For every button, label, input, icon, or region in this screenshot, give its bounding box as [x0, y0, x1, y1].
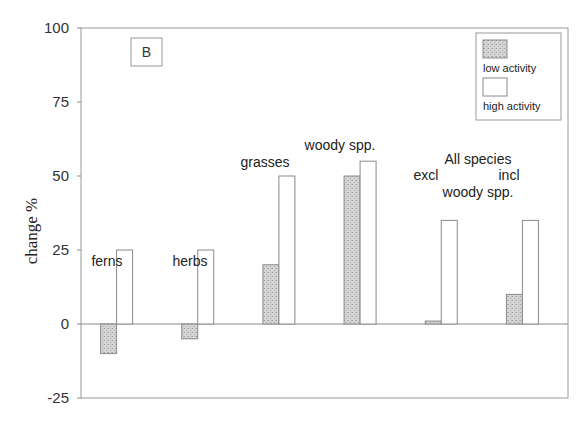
bar-low-activity-3 [344, 176, 360, 324]
bar-chart: -250255075100change % Bfernsherbsgrasses… [0, 0, 588, 429]
category-label: ferns [91, 253, 122, 269]
legend-label: low activity [483, 62, 537, 74]
y-tick-label: 75 [52, 93, 69, 110]
legend: low activityhigh activity [476, 33, 561, 120]
category-label: woody spp. [304, 137, 376, 153]
group-annotation: All species [445, 151, 512, 167]
legend-label: high activity [483, 100, 541, 112]
category-label: herbs [172, 253, 207, 269]
bar-low-activity-1 [182, 324, 198, 339]
bar-high-activity-5 [522, 220, 538, 324]
bar-high-activity-3 [360, 161, 376, 324]
y-axis-label: change % [22, 198, 41, 265]
y-tick-label: -25 [47, 389, 69, 406]
bar-low-activity-4 [425, 321, 441, 324]
y-tick-label: 0 [61, 315, 69, 332]
category-label: incl [498, 167, 519, 183]
y-tick-label: 50 [52, 167, 69, 184]
bar-low-activity-5 [506, 294, 522, 324]
panel-label: B [142, 44, 151, 60]
group-annotation: woody spp. [442, 184, 514, 200]
category-label: excl [414, 167, 439, 183]
legend-swatch-high-activity [483, 78, 507, 96]
bar-high-activity-2 [279, 176, 295, 324]
bar-high-activity-4 [441, 220, 457, 324]
bar-low-activity-0 [101, 324, 117, 354]
bar-low-activity-2 [263, 265, 279, 324]
y-tick-label: 25 [52, 241, 69, 258]
category-label: grasses [240, 154, 289, 170]
legend-swatch-low-activity [483, 40, 507, 58]
y-tick-label: 100 [44, 19, 69, 36]
